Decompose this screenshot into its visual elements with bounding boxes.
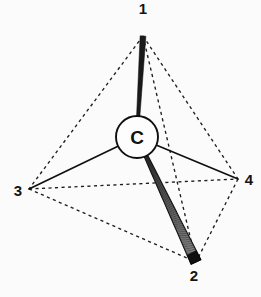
- central-carbon-label: C: [130, 127, 144, 148]
- tetrahedral-carbon-figure: C 1234: [0, 0, 261, 297]
- vertex-label-4: 4: [245, 171, 254, 188]
- vertex-label-2: 2: [190, 267, 198, 284]
- vertex-label-3: 3: [14, 182, 22, 199]
- molecule-diagram-canvas: C 1234: [0, 0, 261, 297]
- vertex-label-1: 1: [139, 0, 147, 17]
